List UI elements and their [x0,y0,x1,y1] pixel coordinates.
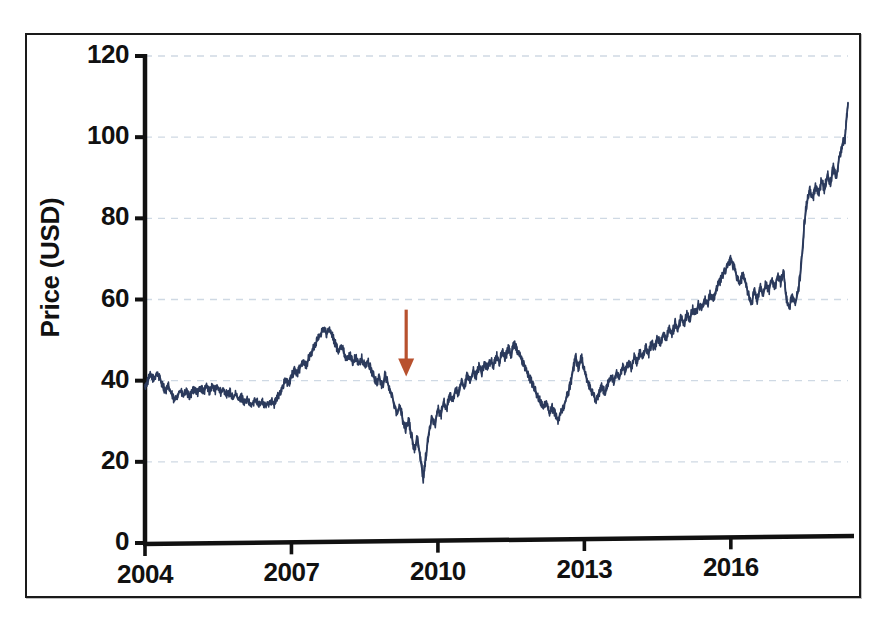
figure-root: Price (USD) 020406080100120 200420072010… [0,0,886,625]
x-tick-label-2007: 2007 [231,557,351,588]
series-noise-0 [145,103,848,483]
series-line-0 [145,103,848,478]
y-tick-label-60: 60 [49,283,129,314]
x-tick-label-2016: 2016 [671,552,791,583]
price-line-chart [0,0,886,625]
series-group [145,103,848,483]
y-tick-label-120: 120 [49,39,129,70]
x-tick-label-2010: 2010 [378,556,498,587]
y-tick-label-0: 0 [49,526,129,557]
x-tick-label-2004: 2004 [85,559,205,590]
x-tick-label-2013: 2013 [524,554,644,585]
y-tick-label-20: 20 [49,445,129,476]
y-tick-label-80: 80 [49,201,129,232]
gridlines-group [145,56,848,462]
crisis-arrow-head [398,359,414,377]
y-tick-label-100: 100 [49,120,129,151]
y-tick-label-40: 40 [49,364,129,395]
axes-group [135,54,854,556]
annotations-group [398,310,414,377]
x-axis-spine [143,536,854,544]
